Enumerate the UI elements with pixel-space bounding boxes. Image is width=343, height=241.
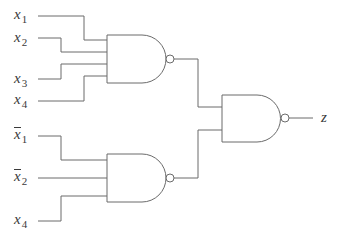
logic-circuit-diagram — [0, 0, 343, 241]
label-output-z: z — [321, 110, 327, 125]
label-x2: x2 — [14, 30, 27, 48]
label-x4-bottom-var: x — [14, 211, 21, 227]
nand-gate-3 — [222, 95, 289, 142]
inversion-bubble-2 — [166, 174, 174, 182]
label-x4-top: x4 — [14, 92, 27, 110]
label-x1-bar: x1 — [14, 127, 27, 145]
wire-g1-to-g3 — [174, 59, 222, 107]
label-x2-var: x — [14, 29, 21, 45]
wire-x4-bottom — [38, 196, 107, 221]
nand-gate-2 — [107, 154, 174, 202]
label-z-text: z — [321, 109, 327, 125]
wire-x1 — [38, 16, 107, 40]
label-x2-bar: x2 — [14, 169, 27, 187]
label-x2-bar-var: x — [14, 169, 21, 184]
label-x4-top-var: x — [14, 91, 21, 107]
inversion-bubble-1 — [166, 55, 174, 63]
label-x3-var: x — [14, 70, 21, 86]
label-x3: x3 — [14, 71, 27, 89]
label-x1-bar-var: x — [14, 127, 21, 142]
label-x1-var: x — [14, 6, 21, 22]
label-x4-top-sub: 4 — [22, 98, 28, 110]
label-x1: x1 — [14, 7, 27, 25]
label-x3-sub: 3 — [22, 77, 28, 89]
wire-x4-top — [38, 76, 107, 101]
label-x4-bottom-sub: 4 — [22, 218, 28, 230]
inversion-bubble-3 — [281, 114, 289, 122]
label-x2-sub: 2 — [22, 36, 28, 48]
wire-x1-bar — [38, 136, 107, 160]
label-x2-bar-sub: 2 — [22, 175, 28, 187]
label-x1-sub: 1 — [22, 13, 28, 25]
wire-g2-to-g3 — [174, 130, 222, 178]
wire-x3 — [38, 64, 107, 79]
nand-gate-1 — [107, 35, 174, 83]
label-x1-bar-sub: 1 — [22, 133, 28, 145]
label-x4-bottom: x4 — [14, 212, 27, 230]
